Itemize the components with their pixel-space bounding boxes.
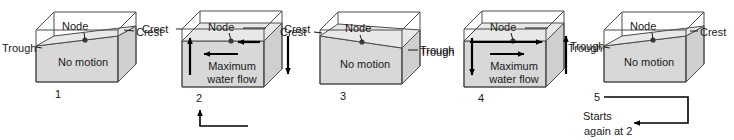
panel-1-node-label: Node — [62, 20, 88, 32]
loop-caption-line2: again at 2 — [584, 125, 632, 137]
panel-5: Node Trough Crest No motion 5 — [568, 12, 726, 103]
panel-5-number: 5 — [594, 91, 600, 103]
panel-4-left-label: Trough — [420, 46, 454, 58]
panel-5-left-label: Trough — [568, 42, 602, 54]
panel-2-body-label-line2: water flow — [206, 73, 257, 85]
panel-2-left-label: Crest — [142, 23, 168, 35]
panel-1-left-label: Trough — [2, 42, 36, 54]
panel-1-number: 1 — [55, 88, 61, 100]
panel-3-number: 3 — [340, 90, 346, 102]
panel-4-body-label-line2: water flow — [488, 73, 539, 85]
diagram-canvas: Node Trough Crest No motion 1 Node — [0, 0, 734, 140]
panel-2-node-label: Node — [208, 21, 234, 33]
panel-3-body-label: No motion — [340, 58, 390, 70]
return-loop-path — [604, 97, 688, 123]
loop-arrow-into-panel-2 — [200, 110, 248, 126]
panel-1: Node Trough Crest No motion 1 — [2, 12, 162, 100]
panel-5-right-label: Crest — [700, 26, 726, 38]
panel-4-node-label: Node — [490, 21, 516, 33]
panel-5-node-label: Node — [630, 20, 656, 32]
return-loop: Starts again at 2 — [583, 97, 688, 137]
panel-5-body-label: No motion — [624, 56, 674, 68]
panel-2-body-label-line1: Maximum — [208, 60, 256, 72]
panel-4-number: 4 — [478, 92, 484, 104]
loop-caption-line1: Starts — [583, 110, 612, 122]
panel-1-body-label: No motion — [58, 56, 108, 68]
panel-3-left-label: Crest — [280, 26, 306, 38]
panel-2-number: 2 — [196, 92, 202, 104]
panel-3-node-label: Node — [345, 22, 371, 34]
panel-4: Node Trough Trough Maximum water flow 4 — [420, 11, 604, 104]
panel-4-body-label-line1: Maximum — [490, 60, 538, 72]
